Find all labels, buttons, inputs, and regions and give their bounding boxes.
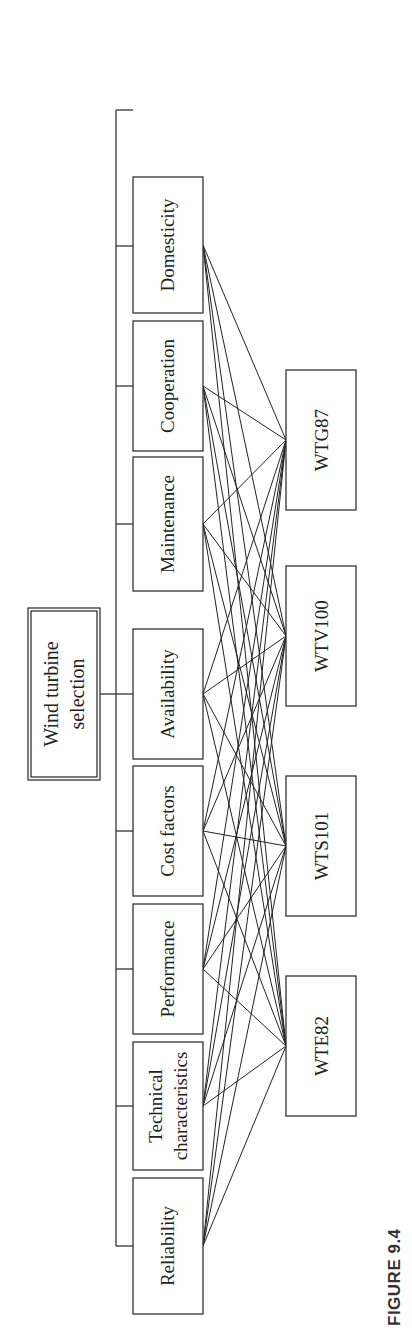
criterion-label: Cooperation xyxy=(157,339,178,433)
goal-label-line2: selection xyxy=(66,658,88,729)
link-line xyxy=(203,440,286,694)
criterion-reliability: Reliability xyxy=(133,1178,203,1314)
link-line xyxy=(203,440,286,1246)
criterion-cooperation: Cooperation xyxy=(133,321,203,451)
link-line xyxy=(203,245,286,440)
alternatives-row: WTE82 WTS101 WTV100 WTG87 xyxy=(286,370,356,1116)
criterion-label: Performance xyxy=(157,920,178,1017)
hierarchy-bracket xyxy=(100,110,133,1246)
alternative-label: WTG87 xyxy=(311,409,332,471)
alternative-label: WTS101 xyxy=(311,812,332,881)
alternative-wtg87: WTG87 xyxy=(286,370,356,510)
criterion-label: Cost factors xyxy=(157,785,178,876)
link-line xyxy=(203,524,286,1046)
criterion-label: Technical xyxy=(145,1069,166,1143)
criterion-domesticity: Domesticity xyxy=(133,177,203,313)
link-line xyxy=(203,245,286,846)
link-line xyxy=(203,846,286,1246)
alternative-wts101: WTS101 xyxy=(286,776,356,916)
goal-node: Wind turbine selection xyxy=(28,608,100,780)
criterion-cost-factors: Cost factors xyxy=(133,766,203,896)
link-line xyxy=(203,831,286,1046)
criterion-label: Domesticity xyxy=(157,198,178,291)
link-line xyxy=(203,245,286,636)
criterion-technical-characteristics: Technical characteristics xyxy=(133,1042,203,1170)
link-line xyxy=(203,694,286,1046)
criterion-performance: Performance xyxy=(133,904,203,1034)
link-line xyxy=(203,636,286,1246)
criterion-maintenance: Maintenance xyxy=(133,457,203,591)
alternative-label: WTV100 xyxy=(311,600,332,672)
criterion-label: Availability xyxy=(157,649,178,739)
figure-caption: FIGURE 9.4 xyxy=(385,1228,404,1326)
ahp-hierarchy-diagram: Wind turbine selection Reliability Techn… xyxy=(0,0,412,1336)
alternative-wtv100: WTV100 xyxy=(286,566,356,706)
goal-label-line1: Wind turbine xyxy=(40,641,62,746)
criterion-alternative-links xyxy=(203,245,286,1246)
link-line xyxy=(203,245,286,1046)
link-line xyxy=(203,386,286,440)
alternative-wte82: WTE82 xyxy=(286,976,356,1116)
criteria-row: Reliability Technical characteristics Pe… xyxy=(133,177,203,1314)
criterion-label: Reliability xyxy=(157,1205,178,1286)
link-line xyxy=(203,846,286,1106)
criterion-label: Maintenance xyxy=(157,475,178,573)
criterion-availability: Availability xyxy=(133,629,203,759)
alternative-label: WTE82 xyxy=(311,1016,332,1076)
criterion-label-line2: characteristics xyxy=(170,1052,191,1161)
